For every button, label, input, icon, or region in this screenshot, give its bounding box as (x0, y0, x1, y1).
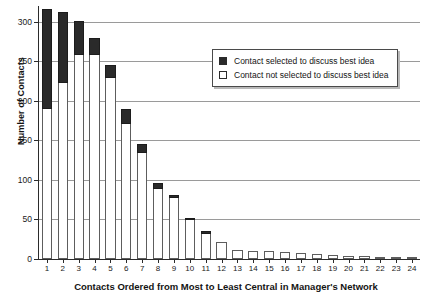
x-tick-mark (79, 259, 80, 263)
bar-15 (264, 251, 274, 259)
bar-9 (169, 195, 179, 259)
x-tick-mark (63, 259, 64, 263)
x-tick-mark (380, 259, 381, 263)
chart-legend: Contact selected to discuss best idea Co… (212, 49, 398, 87)
x-tick-label: 5 (108, 264, 112, 273)
x-tick-mark (142, 259, 143, 263)
x-tick-mark (253, 259, 254, 263)
bar-series-layer (39, 6, 420, 259)
x-tick-label: 11 (202, 264, 210, 273)
legend-item-selected: Contact selected to discuss best idea (219, 54, 389, 68)
bar-selected-segment (201, 231, 211, 234)
y-tick-label: 100 (18, 175, 32, 185)
x-tick-label: 13 (233, 264, 242, 273)
x-tick-mark (333, 259, 334, 263)
bar-13 (232, 250, 242, 259)
bar-11 (201, 231, 211, 259)
x-tick-mark (95, 259, 96, 263)
bar-2 (58, 12, 68, 259)
x-tick-label: 20 (344, 264, 353, 273)
y-tick-mark (34, 259, 39, 260)
bar-10 (185, 218, 195, 259)
y-tick-label: 150 (18, 135, 32, 145)
y-tick-label: 0 (27, 254, 32, 264)
bar-selected-segment (121, 109, 131, 124)
x-axis-title: Contacts Ordered from Most to Least Cent… (28, 281, 424, 292)
bar-selected-segment (58, 12, 68, 84)
x-tick-mark (237, 259, 238, 263)
legend-item-label: Contact selected to discuss best idea (234, 56, 374, 66)
plot-area: 050100150200250300 123456789101112131415… (38, 6, 420, 260)
bar-selected-segment (74, 21, 84, 55)
x-tick-label: 24 (408, 264, 417, 273)
legend-item-label: Contact not selected to discuss best ide… (234, 70, 389, 80)
y-tick-label: 300 (18, 17, 32, 27)
y-tick-label: 200 (18, 96, 32, 106)
x-tick-mark (174, 259, 175, 263)
bar-selected-segment (89, 38, 99, 55)
x-tick-mark (349, 259, 350, 263)
x-tick-label: 2 (61, 264, 65, 273)
bar-selected-segment (42, 9, 52, 109)
y-tick-label: 50 (23, 214, 32, 224)
x-tick-mark (110, 259, 111, 263)
empty-square-icon (219, 71, 227, 79)
bar-selected-segment (185, 218, 195, 220)
bar-selected-segment (169, 195, 179, 198)
x-tick-mark (47, 259, 48, 263)
bar-5 (105, 65, 115, 259)
bar-selected-segment (153, 183, 163, 189)
x-tick-label: 23 (392, 264, 401, 273)
x-tick-label: 15 (265, 264, 274, 273)
x-tick-mark (317, 259, 318, 263)
x-tick-mark (158, 259, 159, 263)
bar-selected-segment (105, 65, 115, 78)
x-tick-mark (412, 259, 413, 263)
bar-6 (121, 109, 131, 259)
x-tick-mark (396, 259, 397, 263)
filled-square-icon (219, 57, 227, 65)
bar-7 (137, 144, 147, 259)
x-tick-label: 14 (249, 264, 258, 273)
x-tick-label: 18 (312, 264, 321, 273)
x-tick-mark (364, 259, 365, 263)
x-tick-label: 7 (140, 264, 144, 273)
x-tick-mark (222, 259, 223, 263)
x-tick-mark (285, 259, 286, 263)
x-tick-label: 4 (92, 264, 96, 273)
x-tick-label: 12 (217, 264, 226, 273)
x-tick-mark (206, 259, 207, 263)
x-tick-label: 3 (76, 264, 80, 273)
bar-4 (89, 38, 99, 259)
x-tick-mark (301, 259, 302, 263)
x-tick-label: 21 (360, 264, 369, 273)
bar-3 (74, 21, 84, 259)
x-tick-label: 1 (45, 264, 49, 273)
y-tick-label: 250 (18, 56, 32, 66)
bar-16 (280, 252, 290, 259)
bar-chart-figure: Number of Contacts 050100150200250300 12… (0, 0, 427, 299)
legend-item-not-selected: Contact not selected to discuss best ide… (219, 68, 389, 82)
x-tick-mark (126, 259, 127, 263)
bar-8 (153, 183, 163, 259)
x-tick-label: 6 (124, 264, 128, 273)
x-tick-label: 22 (376, 264, 385, 273)
x-tick-label: 17 (296, 264, 305, 273)
x-tick-label: 19 (328, 264, 337, 273)
x-tick-label: 10 (185, 264, 194, 273)
x-tick-label: 16 (281, 264, 290, 273)
bar-14 (248, 251, 258, 259)
x-tick-mark (269, 259, 270, 263)
bar-selected-segment (137, 144, 147, 153)
bar-1 (42, 9, 52, 259)
x-tick-label: 8 (156, 264, 160, 273)
x-tick-mark (190, 259, 191, 263)
bar-12 (216, 242, 226, 259)
x-tick-label: 9 (172, 264, 176, 273)
